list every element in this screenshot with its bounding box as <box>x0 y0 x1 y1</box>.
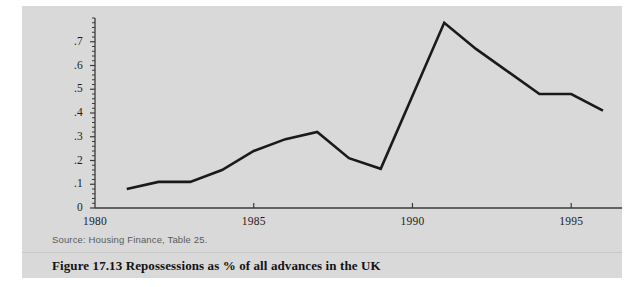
y-axis-tick-label: .1 <box>57 177 83 189</box>
y-axis-tick-label: .6 <box>57 59 83 71</box>
x-axis-tick-label: 1990 <box>387 215 437 227</box>
y-axis-tick-label: .2 <box>57 154 83 166</box>
figure-caption: Figure 17.13 Repossessions as % of all a… <box>52 258 381 274</box>
y-axis-tick-label: .7 <box>57 35 83 47</box>
y-axis-tick-label: .5 <box>57 82 83 94</box>
x-axis-tick-label: 1980 <box>70 215 120 227</box>
figure-panel: 0.1.2.3.4.5.6.7 1980198519901995 Source:… <box>22 6 622 278</box>
y-axis-tick-label: .3 <box>57 130 83 142</box>
chart-axes <box>95 18 622 208</box>
source-note: Source: Housing Finance, Table 25. <box>52 234 207 245</box>
y-axis-tick-label: .4 <box>57 106 83 118</box>
x-axis-tick-label: 1995 <box>546 215 596 227</box>
x-axis-tick-label: 1985 <box>229 215 279 227</box>
x-axis-major-ticks <box>254 203 571 208</box>
data-series-line <box>127 23 603 189</box>
y-axis-major-ticks <box>90 42 95 208</box>
caption-divider <box>22 252 622 253</box>
line-chart-svg <box>22 6 622 231</box>
y-axis-tick-label: 0 <box>57 201 83 213</box>
chart-plot-area: 0.1.2.3.4.5.6.7 1980198519901995 <box>22 6 622 231</box>
